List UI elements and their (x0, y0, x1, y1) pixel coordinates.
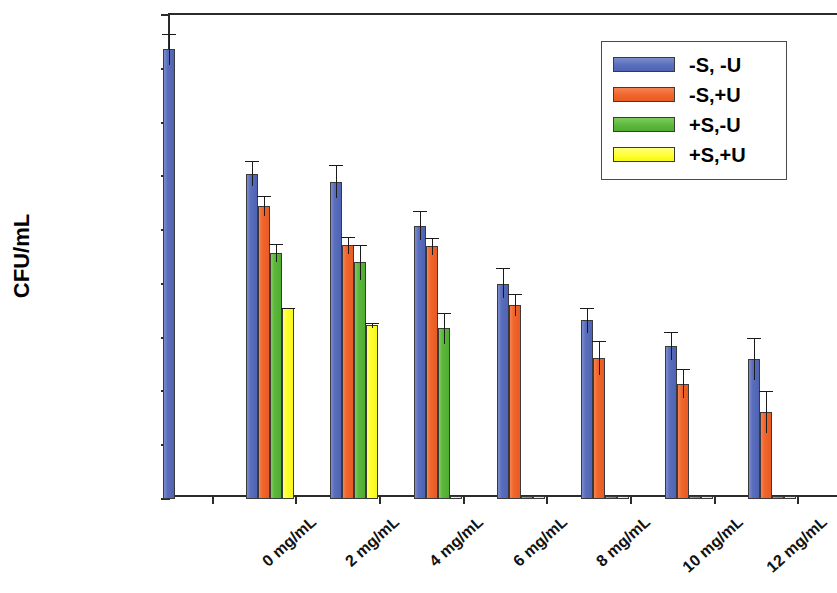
x-axis-tick-label: 6 mg/mL (510, 513, 571, 570)
error-bar-cap (496, 268, 510, 269)
legend-label: +S,-U (689, 114, 741, 137)
x-axis-tick (630, 495, 632, 504)
bar (414, 226, 426, 499)
legend-color-swatch (613, 117, 675, 132)
bar (258, 206, 270, 499)
bar (593, 358, 605, 499)
error-bar-line (420, 211, 421, 226)
x-axis-tick-label: 10 mg/mL (679, 513, 747, 576)
y-axis-title: CFU/mL (9, 176, 35, 336)
error-bar-line (515, 305, 516, 316)
error-bar-line (288, 308, 289, 309)
error-bar-cap (664, 332, 678, 333)
error-bar-cap (759, 391, 773, 392)
legend-item: -S, -U (613, 56, 778, 74)
error-bar-line (360, 262, 361, 279)
x-axis-tick (379, 495, 381, 504)
bar (581, 320, 593, 499)
error-bar-line (372, 325, 373, 328)
legend-label: -S,+U (689, 84, 741, 107)
error-bar-cap (437, 313, 451, 314)
error-bar-line (671, 332, 672, 346)
error-bar-line (766, 412, 767, 433)
error-bar-line (169, 34, 170, 50)
error-bar-line (503, 284, 504, 298)
error-bar-line (252, 174, 253, 186)
error-bar-line (599, 341, 600, 358)
legend-item: -S,+U (613, 86, 778, 104)
bar (426, 246, 438, 499)
x-axis-tick (212, 495, 214, 504)
legend-color-swatch (613, 87, 675, 102)
error-bar-cap (257, 196, 271, 197)
error-bar-line (348, 245, 349, 254)
error-bar-cap (413, 211, 427, 212)
error-bar-line (503, 268, 504, 284)
legend-color-swatch (613, 57, 675, 72)
error-bar-cap (269, 244, 283, 245)
x-axis-tick (295, 495, 297, 504)
error-bar-line (515, 294, 516, 305)
error-bar-line (683, 369, 684, 383)
error-bar-line (336, 165, 337, 181)
error-bar-line (264, 196, 265, 206)
error-bar-cap (425, 238, 439, 239)
error-bar-cap (329, 165, 343, 166)
bar (533, 496, 545, 499)
bar (772, 496, 784, 499)
x-axis-tick (714, 495, 716, 504)
x-axis-tick (546, 495, 548, 504)
legend-label: -S, -U (689, 54, 741, 77)
legend-item: +S,-U (613, 116, 778, 134)
x-axis-tick-label: 0 mg/mL (259, 513, 320, 570)
legend-item: +S,+U (613, 146, 778, 164)
legend-color-swatch (613, 147, 675, 162)
bar (677, 384, 689, 499)
error-bar-line (420, 226, 421, 240)
bar (438, 328, 450, 499)
bar (366, 325, 378, 499)
bar (163, 49, 175, 499)
error-bar-cap (341, 237, 355, 238)
error-bar-line (754, 359, 755, 380)
bar (282, 308, 294, 499)
x-axis-tick-label: 4 mg/mL (426, 513, 487, 570)
bar (784, 496, 796, 499)
error-bar-cap (592, 341, 606, 342)
y-axis-tick (161, 14, 170, 16)
bar (450, 496, 462, 499)
bar (246, 174, 258, 499)
bar (330, 182, 342, 499)
error-bar-line (683, 384, 684, 399)
error-bar-line (766, 391, 767, 411)
bar (354, 262, 366, 499)
bar (270, 253, 282, 499)
error-bar-cap (508, 294, 522, 295)
error-bar-line (599, 358, 600, 375)
error-bar-cap (353, 245, 367, 246)
bar (701, 496, 713, 499)
error-bar-cap (245, 161, 259, 162)
bar (617, 496, 629, 499)
error-bar-cap (580, 308, 594, 309)
error-bar-line (252, 161, 253, 174)
error-bar-line (169, 49, 170, 64)
x-axis-tick (463, 495, 465, 504)
error-bar-line (432, 238, 433, 247)
x-axis-tick-label: 12 mg/mL (763, 513, 831, 576)
error-bar-line (264, 206, 265, 216)
chart-legend: -S, -U-S,+U+S,-U+S,+U (601, 41, 787, 180)
error-bar-cap (747, 338, 761, 339)
error-bar-line (276, 253, 277, 262)
x-axis-tick (797, 495, 799, 504)
x-axis-tick-label: 8 mg/mL (593, 513, 654, 570)
error-bar-line (587, 320, 588, 333)
error-bar-line (444, 313, 445, 328)
x-axis-tick-label: 2 mg/mL (342, 513, 403, 570)
error-bar-line (432, 246, 433, 254)
error-bar-line (671, 346, 672, 360)
error-bar-line (276, 244, 277, 253)
error-bar-line (444, 328, 445, 344)
bar (497, 284, 509, 499)
bar (521, 496, 533, 499)
